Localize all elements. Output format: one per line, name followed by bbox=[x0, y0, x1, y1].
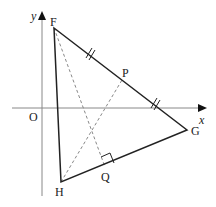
label-H: H bbox=[55, 185, 64, 199]
origin-label: O bbox=[29, 110, 38, 124]
geometry-diagram: x y O F P G H Q bbox=[0, 0, 216, 207]
dashed-segments bbox=[54, 28, 122, 182]
label-G: G bbox=[191, 124, 200, 138]
segment-HP bbox=[61, 80, 122, 182]
x-axis-arrow-icon bbox=[198, 104, 207, 112]
segment-FQ bbox=[54, 28, 105, 167]
label-Q: Q bbox=[101, 170, 110, 184]
triangle-FGH bbox=[54, 28, 187, 182]
y-axis-label: y bbox=[30, 9, 37, 23]
triangle-outline bbox=[54, 28, 187, 182]
coordinate-axes: x y O bbox=[12, 9, 207, 196]
label-F: F bbox=[50, 15, 57, 29]
y-axis-arrow-icon bbox=[38, 11, 46, 20]
label-P: P bbox=[122, 66, 129, 80]
